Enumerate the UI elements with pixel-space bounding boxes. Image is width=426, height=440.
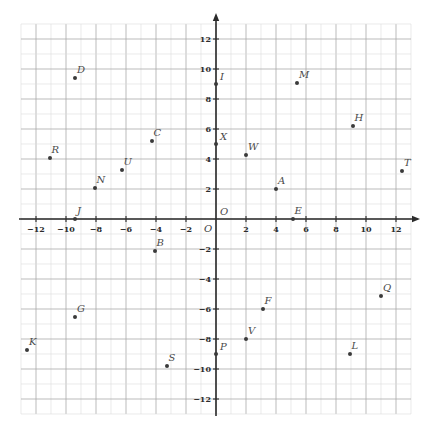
x-axis-tick-label: 10 xyxy=(360,225,371,233)
point-label-u: U xyxy=(124,157,132,167)
y-axis-tick-label: −4 xyxy=(199,275,211,283)
x-axis-tick-label: 12 xyxy=(390,225,401,233)
y-axis-tick-label: 4 xyxy=(205,155,211,163)
data-point-d xyxy=(73,76,77,80)
point-label-v: V xyxy=(248,326,255,336)
data-point-i xyxy=(214,82,218,86)
data-point-r xyxy=(48,156,52,160)
x-axis-origin-tick-label: O xyxy=(204,224,212,234)
point-label-b: B xyxy=(157,238,164,248)
y-axis-tick-label: −2 xyxy=(199,245,211,253)
y-axis-tick-label: 10 xyxy=(200,65,211,73)
data-point-s xyxy=(165,364,169,368)
point-label-o: O xyxy=(220,207,228,217)
y-axis-tick-label: −6 xyxy=(199,305,211,313)
point-label-t: T xyxy=(404,158,411,168)
data-point-g xyxy=(73,315,77,319)
data-point-p xyxy=(214,352,218,356)
data-point-l xyxy=(348,352,352,356)
x-axis-tick-label: −10 xyxy=(57,225,75,233)
data-point-m xyxy=(295,81,299,85)
data-point-q xyxy=(379,294,383,298)
x-axis-tick-label: −4 xyxy=(150,225,162,233)
point-label-n: N xyxy=(97,175,106,185)
point-label-e: E xyxy=(295,206,302,216)
y-axis-tick-label: −10 xyxy=(193,365,211,373)
x-axis-tick-label: −12 xyxy=(27,225,45,233)
x-axis-tick-label: −2 xyxy=(180,225,192,233)
x-axis-tick-label: 8 xyxy=(333,225,339,233)
point-label-w: W xyxy=(248,142,258,152)
y-axis-tick-label: 8 xyxy=(205,95,211,103)
data-point-a xyxy=(274,187,278,191)
y-axis-tick-label: 2 xyxy=(205,185,211,193)
coordinate-plane: DIMHCXWRTUNAJOEBQFGVKPLS −12−10−8−6−4−22… xyxy=(0,0,426,440)
point-label-i: I xyxy=(220,72,224,82)
x-axis-tick-label: 4 xyxy=(273,225,279,233)
point-label-h: H xyxy=(355,113,364,123)
data-point-k xyxy=(25,348,29,352)
point-label-p: P xyxy=(220,342,227,352)
y-axis-tick-label: 6 xyxy=(205,125,211,133)
y-axis-tick-label: 12 xyxy=(200,35,211,43)
data-point-x xyxy=(214,142,218,146)
x-axis-tick-label: −6 xyxy=(120,225,132,233)
point-label-s: S xyxy=(169,353,176,363)
data-point-u xyxy=(120,168,124,172)
y-axis-tick-label: −8 xyxy=(199,335,211,343)
data-point-b xyxy=(153,249,157,253)
point-label-a: A xyxy=(278,176,285,186)
x-axis-tick-label: 2 xyxy=(243,225,249,233)
point-label-d: D xyxy=(77,65,85,75)
point-label-x: X xyxy=(220,132,227,142)
point-label-r: R xyxy=(52,145,60,155)
data-point-h xyxy=(351,124,355,128)
x-axis-tick-label: 6 xyxy=(303,225,309,233)
data-point-t xyxy=(400,169,404,173)
data-point-c xyxy=(150,139,154,143)
point-label-k: K xyxy=(29,337,36,347)
point-label-m: M xyxy=(299,70,309,80)
data-point-j xyxy=(73,217,77,221)
point-label-f: F xyxy=(265,296,272,306)
point-label-l: L xyxy=(352,341,359,351)
y-axis-tick-label: −12 xyxy=(193,395,211,403)
point-label-c: C xyxy=(154,128,162,138)
point-label-j: J xyxy=(77,206,81,216)
x-axis-tick-label: −8 xyxy=(90,225,102,233)
data-point-e xyxy=(291,217,295,221)
data-point-v xyxy=(244,337,248,341)
data-point-w xyxy=(244,153,248,157)
point-label-q: Q xyxy=(383,283,391,293)
data-point-f xyxy=(261,307,265,311)
grid-and-axes xyxy=(0,0,426,440)
point-label-g: G xyxy=(77,304,85,314)
data-point-n xyxy=(93,186,97,190)
